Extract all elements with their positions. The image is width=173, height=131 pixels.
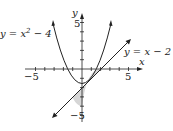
y-tick-label-neg5: −5 <box>70 110 85 121</box>
y-tick-label-5: 5 <box>74 18 80 29</box>
graph: y = x2 − 4 y = x − 2 x y −5 5 5 −5 <box>0 0 173 131</box>
x-axis-label: x <box>139 56 145 67</box>
x-tick-label-neg5: −5 <box>24 71 39 82</box>
x-tick-label-5: 5 <box>125 71 131 82</box>
line-curve <box>54 41 129 116</box>
shaded-region <box>73 69 101 106</box>
y-axis-label: y <box>71 7 78 18</box>
parabola-label: y = x2 − 4 <box>0 27 52 39</box>
line-label: y = x − 2 <box>123 46 171 57</box>
